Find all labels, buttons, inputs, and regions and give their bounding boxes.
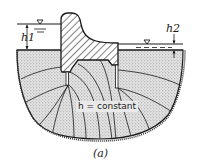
upstream-sheet-pile	[66, 72, 69, 85]
equipotential-label: h = constant	[76, 101, 138, 112]
figure-caption: (a)	[93, 147, 108, 160]
h2-label: h2	[166, 22, 180, 35]
downstream-sheet-pile	[116, 65, 119, 88]
h1-label: h1	[21, 31, 35, 44]
